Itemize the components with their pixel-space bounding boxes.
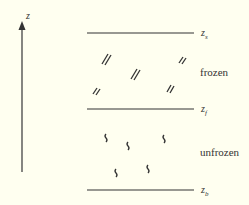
level-label-zs: zs xyxy=(201,27,208,41)
level-label-zf-sub: f xyxy=(205,109,207,117)
level-label-zb-sub: b xyxy=(205,190,209,198)
diagram-canvas xyxy=(0,0,249,205)
z-axis-arrow xyxy=(19,21,26,172)
level-label-zs-sub: s xyxy=(205,33,208,41)
z-axis-label: z xyxy=(26,10,30,21)
unfrozen-water-marks xyxy=(105,134,165,177)
region-label-frozen: frozen xyxy=(200,66,228,78)
region-label-unfrozen: unfrozen xyxy=(200,146,239,158)
frozen-ice-marks xyxy=(93,54,186,95)
level-label-zb: zb xyxy=(201,184,208,198)
level-label-zf: zf xyxy=(201,103,207,117)
